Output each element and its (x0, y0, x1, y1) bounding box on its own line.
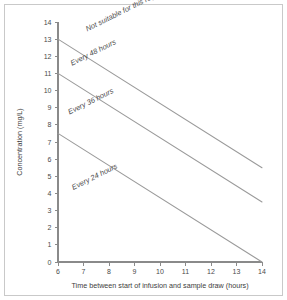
y-tick-label: 6 (48, 156, 52, 163)
series-line-lower-boundary (58, 133, 262, 262)
series-lines-group (58, 39, 262, 262)
y-tick-label: 5 (48, 173, 52, 180)
region-labels-group: Not suitable for this regimenEvery 48 ho… (66, 0, 170, 192)
x-tick-label: 6 (56, 268, 60, 275)
y-tick-label: 10 (44, 87, 52, 94)
y-axis-ticks: 01234567891011121314 (44, 19, 58, 266)
y-tick-label: 8 (48, 121, 52, 128)
y-tick-label: 9 (48, 104, 52, 111)
y-tick-label: 4 (48, 190, 52, 197)
x-tick-label: 12 (207, 268, 215, 275)
y-tick-label: 12 (44, 53, 52, 60)
x-axis-ticks: 67891011121314 (56, 262, 266, 275)
y-tick-label: 1 (48, 241, 52, 248)
x-tick-label: 14 (258, 268, 266, 275)
region-label: Every 48 hours (69, 37, 118, 67)
region-label: Not suitable for this regimen (84, 0, 170, 33)
x-tick-label: 8 (107, 268, 111, 275)
y-tick-label: 7 (48, 139, 52, 146)
figure-root: 01234567891011121314 67891011121314 Not … (0, 0, 287, 300)
x-tick-label: 11 (182, 268, 189, 275)
y-tick-label: 3 (48, 207, 52, 214)
y-tick-label: 13 (44, 36, 52, 43)
y-axis-title: Concentration (mg/L) (15, 108, 24, 176)
y-tick-label: 2 (48, 224, 52, 231)
x-axis-title: Time between start of infusion and sampl… (71, 281, 248, 290)
region-label: Every 24 hours (70, 161, 119, 191)
x-tick-label: 7 (82, 268, 86, 275)
x-tick-label: 13 (233, 268, 241, 275)
region-label: Every 36 hours (66, 86, 115, 116)
x-tick-label: 9 (133, 268, 137, 275)
y-tick-label: 0 (48, 259, 52, 266)
y-tick-label: 11 (44, 70, 51, 77)
nomogram-chart: 01234567891011121314 67891011121314 Not … (0, 0, 287, 300)
y-tick-label: 14 (44, 19, 52, 26)
x-tick-label: 10 (156, 268, 164, 275)
